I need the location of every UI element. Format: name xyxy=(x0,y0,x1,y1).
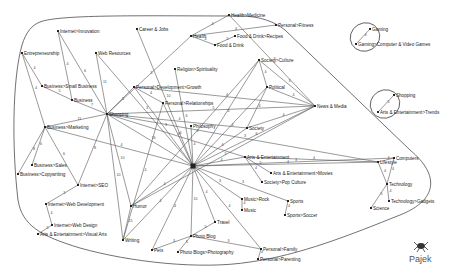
node-society[interactable]: Society xyxy=(246,126,265,131)
node-technology[interactable]: Technology xyxy=(386,182,413,187)
node-marker[interactable] xyxy=(177,251,179,253)
node-marker[interactable] xyxy=(258,59,260,61)
node-marker[interactable] xyxy=(284,214,286,216)
node-marker[interactable] xyxy=(174,68,176,70)
node-marker[interactable] xyxy=(355,43,357,45)
node-business_copywriting[interactable]: Business>Copywriting xyxy=(17,172,66,177)
node-marker[interactable] xyxy=(57,30,59,32)
node-food_drink[interactable]: Food & Drink xyxy=(214,43,245,48)
node-marker[interactable] xyxy=(228,14,230,16)
node-personal_dev[interactable]: Personal>Development>Growth xyxy=(133,85,202,90)
node-society_culture[interactable]: Society>Culture xyxy=(258,58,294,63)
node-arts_trends[interactable]: Arts & Entertainment>Trends xyxy=(377,110,440,115)
node-marker[interactable] xyxy=(44,126,46,128)
node-marker[interactable] xyxy=(45,203,47,205)
node-marker[interactable] xyxy=(314,105,316,107)
node-marker[interactable] xyxy=(388,200,390,202)
node-marker[interactable] xyxy=(136,28,138,30)
node-marker[interactable] xyxy=(386,183,388,185)
node-business_small[interactable]: Business>Small Business xyxy=(41,84,97,89)
node-travel[interactable]: Travel xyxy=(214,220,230,225)
node-marker[interactable] xyxy=(130,205,132,207)
node-marker[interactable] xyxy=(133,86,135,88)
node-society_pop[interactable]: Society>Pop Culture xyxy=(261,180,306,185)
node-marker[interactable] xyxy=(370,207,372,209)
node-marker[interactable] xyxy=(214,221,216,223)
node-internet_innovation[interactable]: Internet>Innovation xyxy=(57,29,100,34)
node-marker[interactable] xyxy=(31,164,33,166)
node-food_recipes[interactable]: Food & Drink>Recipes xyxy=(234,34,284,39)
node-personal_family[interactable]: Personal>Family xyxy=(260,247,298,252)
node-religion[interactable]: Religion>Spirituality xyxy=(174,67,218,72)
node-internet_webdesign[interactable]: Internet>Web Design xyxy=(51,223,98,228)
node-marker[interactable] xyxy=(377,111,379,113)
node-marker[interactable] xyxy=(257,258,259,260)
node-marker[interactable] xyxy=(21,52,23,54)
node-marker[interactable] xyxy=(266,86,268,88)
node-tech_gadgets[interactable]: Technology>Gadgets xyxy=(388,199,435,204)
node-entrepreneurship[interactable]: Entrepreneurship xyxy=(21,51,60,56)
node-marker[interactable] xyxy=(17,173,19,175)
node-marker[interactable] xyxy=(191,164,196,169)
node-science[interactable]: Science xyxy=(370,206,390,211)
node-philosophy[interactable]: Philosophy xyxy=(190,124,216,129)
node-writing[interactable]: Writing xyxy=(122,238,140,243)
node-internet_webdev[interactable]: Internet>Web Development xyxy=(45,202,105,207)
node-marker[interactable] xyxy=(106,113,108,115)
node-sports[interactable]: Sports xyxy=(287,199,304,204)
node-health[interactable]: Health xyxy=(190,34,207,39)
node-web_resources[interactable]: Web Resources xyxy=(95,51,131,56)
node-marker[interactable] xyxy=(37,233,39,235)
node-news_media[interactable]: News & Media xyxy=(314,104,347,109)
node-marker[interactable] xyxy=(41,85,43,87)
node-political[interactable]: Political xyxy=(266,85,285,90)
node-photo_blogs_photography[interactable]: Photo Blogs>Photography xyxy=(177,250,234,255)
node-marker[interactable] xyxy=(275,24,277,26)
node-business[interactable]: Business xyxy=(71,98,93,103)
node-marker[interactable] xyxy=(261,181,263,183)
node-marker[interactable] xyxy=(190,235,192,237)
node-photo_blog[interactable]: Photo Blog xyxy=(190,234,216,239)
node-marker[interactable] xyxy=(122,239,124,241)
node-marker[interactable] xyxy=(241,209,243,211)
node-arts_movies[interactable]: Arts & Entertainment>Movies xyxy=(270,171,333,176)
node-marker[interactable] xyxy=(377,161,379,163)
node-marker[interactable] xyxy=(287,200,289,202)
node-personal_fitness[interactable]: Personal>Fitness xyxy=(275,23,314,28)
node-internet_seo[interactable]: Internet>SEO xyxy=(77,183,108,188)
node-hub[interactable] xyxy=(191,164,196,169)
node-marker[interactable] xyxy=(214,44,216,46)
node-business_sales[interactable]: Business>Sales xyxy=(31,163,68,168)
node-marker[interactable] xyxy=(151,249,153,251)
node-marker[interactable] xyxy=(393,157,395,159)
node-career_jobs[interactable]: Career & Jobs xyxy=(136,27,169,32)
node-marker[interactable] xyxy=(51,224,53,226)
node-marker[interactable] xyxy=(270,172,272,174)
node-humor[interactable]: Humor xyxy=(130,204,147,209)
node-music_rock[interactable]: Music>Rock xyxy=(241,197,270,202)
node-personal_parenting[interactable]: Personal>Parenting xyxy=(257,257,301,262)
node-lifestyle[interactable]: Lifestyle xyxy=(377,160,397,165)
node-marker[interactable] xyxy=(162,102,164,104)
node-marker[interactable] xyxy=(190,35,192,37)
node-gaming_cv[interactable]: Gaming>Computer & Video Games xyxy=(355,42,431,47)
node-arts_ent[interactable]: Arts & Entertainment xyxy=(244,155,290,160)
node-marker[interactable] xyxy=(260,248,262,250)
node-sports_soccer[interactable]: Sports>Soccer xyxy=(284,213,318,218)
node-shopping_hub[interactable]: Shopping xyxy=(106,112,129,117)
node-marker[interactable] xyxy=(95,52,97,54)
node-marker[interactable] xyxy=(234,35,236,37)
node-health_medicine[interactable]: Health>Medicine xyxy=(228,13,266,18)
node-marker[interactable] xyxy=(77,184,79,186)
node-marker[interactable] xyxy=(369,28,371,30)
node-personal_rel[interactable]: Personal>Relationships xyxy=(162,101,214,106)
node-marker[interactable] xyxy=(393,94,395,96)
node-marker[interactable] xyxy=(71,99,73,101)
node-marker[interactable] xyxy=(190,125,192,127)
node-music[interactable]: Music xyxy=(241,208,257,213)
node-marker[interactable] xyxy=(241,198,243,200)
node-arts_visual[interactable]: Arts & Entertainment>Visual Arts xyxy=(37,232,107,237)
node-business_marketing[interactable]: Business>Marketing xyxy=(44,125,89,130)
node-marker[interactable] xyxy=(246,127,248,129)
node-computers[interactable]: Computers xyxy=(393,156,419,161)
